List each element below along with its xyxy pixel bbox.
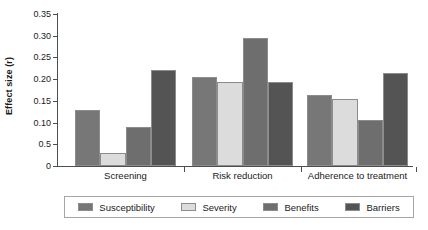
legend-label: Severity [202,202,236,213]
bar-susceptibility-risk-reduction [192,77,217,166]
x-axis-group-label: Screening [104,170,147,181]
y-axis-tick-label: 0.35 [33,9,51,19]
legend-label: Susceptibility [99,202,154,213]
bar-barriers-screening [151,70,176,166]
legend-item-susceptibility[interactable]: Susceptibility [78,202,154,213]
x-axis-group-label: Risk reduction [212,170,272,181]
y-axis-tick-label: 0.25 [33,52,51,62]
bar-benefits-screening [126,127,151,166]
y-axis-title: Effect size (r) [0,0,18,172]
y-axis-tick-label: 0.30 [33,31,51,41]
y-axis-tick-mark [53,57,57,58]
y-axis-tick-label: 0.15 [33,96,51,106]
x-axis-tick-mark [416,167,417,172]
bar-susceptibility-screening [75,110,100,166]
y-axis-tick-labels: 0.350.300.250.200.150.100.50 [18,0,54,172]
y-axis-tick-label: 0.5 [38,139,51,149]
legend-swatch-severity [181,203,196,211]
y-axis-tick-mark [53,101,57,102]
y-axis-tick-mark [53,79,57,80]
y-axis-tick-label: 0.10 [33,118,51,128]
y-axis-tick-label: 0 [46,161,51,171]
y-axis-tick-label: 0.20 [33,74,51,84]
bar-barriers-adherence-to-treatment [383,73,408,166]
legend-item-benefits[interactable]: Benefits [263,202,318,213]
bar-benefits-adherence-to-treatment [358,120,383,166]
legend-swatch-susceptibility [78,203,93,211]
y-axis-tick-mark [53,36,57,37]
legend-label: Benefits [284,202,318,213]
y-axis-tick-mark [53,166,57,167]
bar-severity-adherence-to-treatment [332,99,357,166]
x-axis-line [57,166,413,167]
legend-swatch-barriers [345,203,360,211]
bar-severity-risk-reduction [217,82,242,166]
bar-susceptibility-adherence-to-treatment [307,95,332,166]
bar-chart-figure: Effect size (r) 0.350.300.250.200.150.10… [0,0,428,230]
y-axis-tick-mark [53,14,57,15]
y-axis-tick-mark [53,144,57,145]
y-axis-line [57,13,58,167]
bar-barriers-risk-reduction [268,82,293,166]
y-axis-tick-mark [53,123,57,124]
x-axis-group-labels: ScreeningRisk reductionAdherence to trea… [57,170,413,186]
legend-label: Barriers [366,202,399,213]
bar-benefits-risk-reduction [243,38,268,166]
plot-area [57,14,412,166]
y-axis-title-text: Effect size (r) [4,57,14,115]
bar-severity-screening [100,153,125,166]
legend-swatch-benefits [263,203,278,211]
legend-item-barriers[interactable]: Barriers [345,202,399,213]
legend-item-severity[interactable]: Severity [181,202,236,213]
x-axis-group-label: Adherence to treatment [308,170,407,181]
chart-legend: SusceptibilitySeverityBenefitsBarriers [64,196,414,218]
